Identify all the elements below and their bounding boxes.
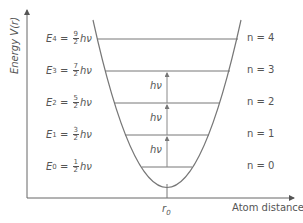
energy-label-e1: E1 = 32hν xyxy=(46,127,92,142)
fraction: 52 xyxy=(73,95,79,110)
fraction: 32 xyxy=(73,127,79,142)
h-nu: hν xyxy=(80,161,92,172)
transition-label: hν xyxy=(150,80,162,91)
transition-label: hν xyxy=(150,112,162,123)
energy-label-e4: E4 = 92hν xyxy=(46,31,92,46)
denominator: 2 xyxy=(74,71,78,78)
r0-label: r0 xyxy=(162,203,171,217)
e-subscript: 1 xyxy=(52,131,56,139)
h-nu: hν xyxy=(80,33,92,44)
quantum-number-n1: n = 1 xyxy=(247,128,274,139)
fraction: 92 xyxy=(73,31,79,46)
x-axis-label: Atom distance r xyxy=(232,202,303,213)
h-nu: hν xyxy=(80,129,92,140)
denominator: 2 xyxy=(74,167,78,174)
h-nu: hν xyxy=(80,97,92,108)
energy-label-e3: E3 = 72hν xyxy=(46,63,92,78)
energy-label-e0: E0 = 12hν xyxy=(46,159,92,174)
x-axis-text: Atom distance xyxy=(232,202,303,213)
y-axis-label: Energy V(r) xyxy=(9,17,20,74)
h-nu: hν xyxy=(80,65,92,76)
quantum-number-n0: n = 0 xyxy=(247,160,274,171)
e-subscript: 2 xyxy=(52,99,56,107)
fraction: 72 xyxy=(73,63,79,78)
denominator: 2 xyxy=(74,39,78,46)
denominator: 2 xyxy=(74,103,78,110)
e-subscript: 4 xyxy=(52,35,56,43)
fraction: 12 xyxy=(73,159,79,174)
quantum-number-n3: n = 3 xyxy=(247,64,274,75)
energy-label-e2: E2 = 52hν xyxy=(46,95,92,110)
quantum-number-n4: n = 4 xyxy=(247,32,274,43)
e-subscript: 3 xyxy=(52,67,56,75)
transition-label: hν xyxy=(150,144,162,155)
e-subscript: 0 xyxy=(52,163,56,171)
denominator: 2 xyxy=(74,135,78,142)
r-subscript: 0 xyxy=(166,209,170,217)
quantum-number-n2: n = 2 xyxy=(247,96,274,107)
